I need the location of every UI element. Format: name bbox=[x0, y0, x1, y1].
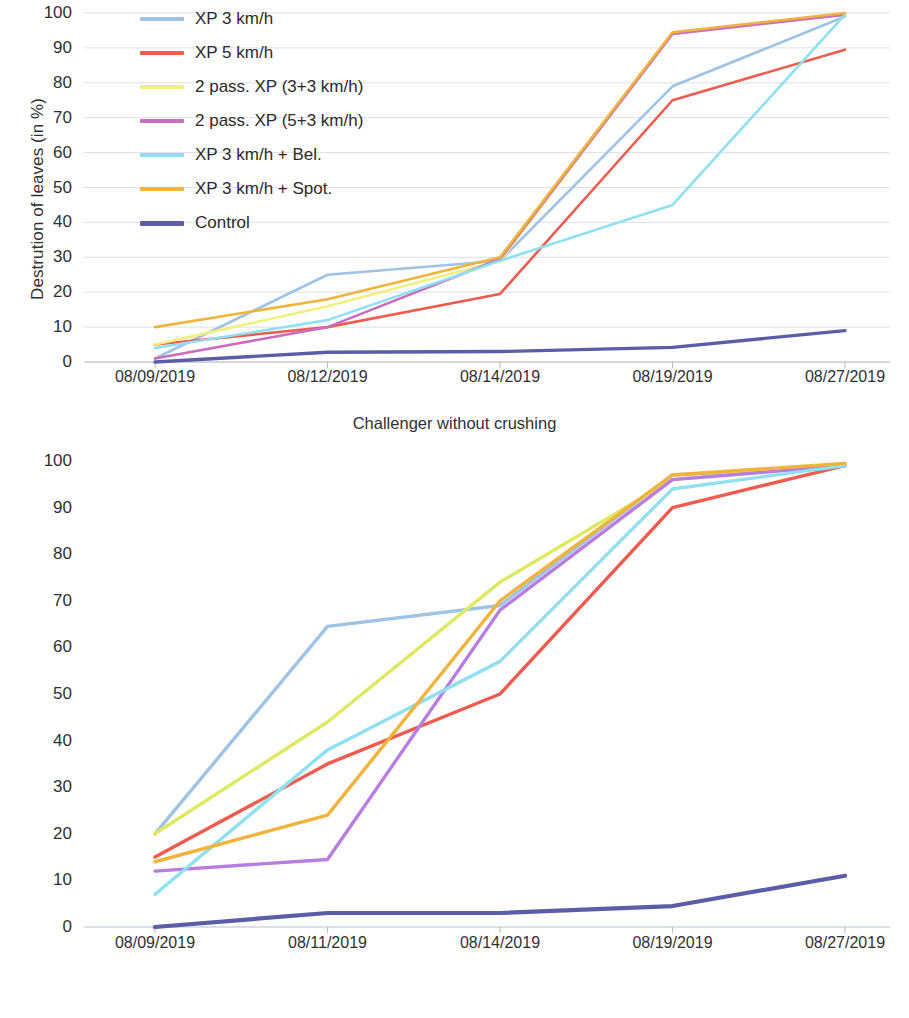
plot-area-top bbox=[0, 0, 909, 380]
legend-item-label: XP 3 km/h + Spot. bbox=[195, 179, 332, 199]
series-line bbox=[155, 463, 845, 833]
chart-top-body: Destrution of leaves (in %) 100908070605… bbox=[0, 0, 909, 440]
legend-item-label: XP 5 km/h bbox=[195, 43, 273, 63]
legend-item-label: 2 pass. XP (5+3 km/h) bbox=[195, 111, 363, 131]
x-axis-tick-label: 08/09/2019 bbox=[95, 934, 215, 951]
x-axis-tick-label: 08/09/2019 bbox=[95, 368, 215, 385]
plot-area-bottom bbox=[0, 440, 909, 1018]
legend-item: XP 3 km/h + Bel. bbox=[140, 138, 363, 172]
x-axis-tick-label: 08/27/2019 bbox=[785, 368, 905, 385]
series-line bbox=[155, 466, 845, 834]
legend-color-swatch bbox=[140, 119, 184, 123]
x-axis-tick-label: 08/14/2019 bbox=[440, 934, 560, 951]
x-axis-tick-label: 08/14/2019 bbox=[440, 368, 560, 385]
x-axis-tick-label: 08/19/2019 bbox=[613, 368, 733, 385]
legend-top: XP 3 km/hXP 5 km/h2 pass. XP (3+3 km/h)2… bbox=[140, 2, 363, 240]
legend-item: XP 3 km/h bbox=[140, 2, 363, 36]
legend-item: 2 pass. XP (3+3 km/h) bbox=[140, 70, 363, 104]
legend-color-swatch bbox=[140, 51, 184, 55]
series-line bbox=[155, 876, 845, 927]
legend-item-label: 2 pass. XP (3+3 km/h) bbox=[195, 77, 363, 97]
x-axis-tick-label: 08/19/2019 bbox=[613, 934, 733, 951]
legend-color-swatch bbox=[140, 221, 184, 226]
chart-bottom-body: Destrution of leaves (in %) 100908070605… bbox=[0, 440, 909, 1018]
x-axis-tick-label: 08/27/2019 bbox=[785, 934, 905, 951]
x-axis-tick-label: 08/11/2019 bbox=[268, 934, 388, 951]
chart-challenger-without-crushing: Destrution of leaves (in %) 100908070605… bbox=[0, 0, 909, 440]
legend-item: XP 3 km/h + Spot. bbox=[140, 172, 363, 206]
legend-color-swatch bbox=[140, 187, 184, 191]
legend-color-swatch bbox=[140, 85, 184, 89]
legend-item-label: XP 3 km/h + Bel. bbox=[195, 145, 322, 165]
legend-color-swatch bbox=[140, 17, 184, 21]
x-axis-tick-label: 08/12/2019 bbox=[268, 368, 388, 385]
legend-item: Control bbox=[140, 206, 363, 240]
legend-item: XP 5 km/h bbox=[140, 36, 363, 70]
chart-title-top: Challenger without crushing bbox=[0, 414, 909, 433]
legend-item-label: XP 3 km/h bbox=[195, 9, 273, 29]
chart-nicola-without-crushing: Destrution of leaves (in %) 100908070605… bbox=[0, 440, 909, 1018]
legend-item: 2 pass. XP (5+3 km/h) bbox=[140, 104, 363, 138]
legend-item-label: Control bbox=[195, 213, 250, 233]
series-line bbox=[155, 466, 845, 871]
legend-color-swatch bbox=[140, 153, 184, 157]
series-line bbox=[155, 466, 845, 895]
